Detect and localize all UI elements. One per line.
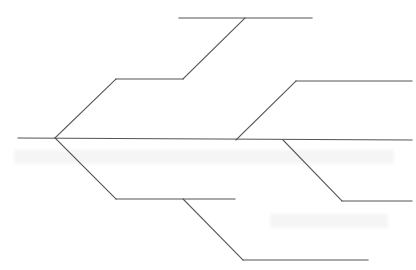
spine-line (18, 138, 412, 140)
right-upper-diag-line (236, 81, 296, 140)
diagram-canvas (0, 0, 416, 270)
bottom-diag-line (183, 199, 243, 260)
top-diag-line (183, 18, 245, 79)
tree-diagram (0, 0, 416, 270)
right-lower-diag-line (283, 140, 342, 201)
lower-diag-line (55, 138, 116, 199)
upper-diag-line (55, 79, 116, 138)
